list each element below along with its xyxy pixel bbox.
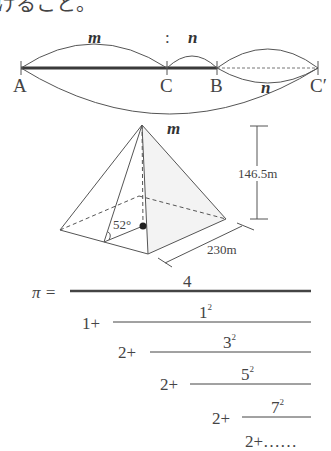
label-n-lower: n (261, 79, 270, 96)
pyramid-diagram (60, 125, 268, 267)
arc-bc-upper (217, 49, 318, 68)
formula-numerator: 4 (183, 273, 192, 290)
term-1-lead: 1+ (82, 315, 100, 332)
label-colon: : (165, 29, 170, 46)
point-a-label: A (13, 76, 27, 95)
height-label: 146.5m (238, 166, 277, 181)
pyramid-apex-label: m (167, 120, 180, 137)
center-dot (140, 223, 147, 230)
base-width-label: 230m (207, 243, 237, 256)
term-1-numerator: 12 (199, 304, 212, 321)
label-n: n (188, 29, 197, 46)
point-c-label: C (160, 76, 173, 95)
term-4-lead: 2+ (212, 410, 230, 427)
arc-n-upper (167, 56, 217, 68)
term-3-lead: 2+ (160, 376, 178, 393)
angle-label: 52° (113, 218, 131, 231)
formula-tail: 2+…… (245, 433, 297, 450)
point-c-prime-label: C′ (310, 76, 327, 95)
point-b-label: B (210, 76, 223, 95)
term-4-numerator: 72 (271, 399, 284, 416)
label-m: m (88, 29, 101, 46)
formula-lhs: π = (32, 284, 56, 301)
term-3-numerator: 52 (241, 366, 254, 383)
term-2-numerator: 32 (223, 334, 236, 351)
term-2-lead: 2+ (118, 344, 136, 361)
arc-m (21, 44, 167, 68)
